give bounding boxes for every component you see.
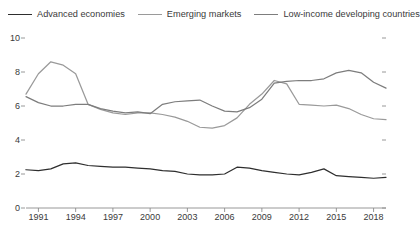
data-series-group	[26, 62, 386, 178]
line-swatch-icon	[8, 14, 32, 15]
line-swatch-icon	[254, 14, 278, 15]
y-tick-label: 0	[0, 204, 20, 213]
x-tick-label: 1991	[21, 213, 55, 222]
legend-label-emerging-markets: Emerging markets	[167, 10, 242, 19]
y-tick-label: 4	[0, 136, 20, 145]
y-tick-label: 6	[0, 102, 20, 111]
line-swatch-icon	[138, 14, 162, 15]
x-tick-label: 2015	[319, 213, 353, 222]
legend-label-advanced-economies: Advanced economies	[37, 10, 125, 19]
x-tick-label: 2012	[282, 213, 316, 222]
x-tick-label: 2009	[245, 213, 279, 222]
series-line	[26, 163, 386, 178]
legend-item-advanced-economies: Advanced economies	[8, 10, 125, 19]
x-tick-label: 2000	[133, 213, 167, 222]
legend-item-low-income-developing-countries: Low-income developing countries	[254, 10, 419, 19]
chart-legend: Advanced economies Emerging markets Low-…	[0, 6, 393, 24]
y-tick-label: 10	[0, 34, 20, 43]
y-tick-label: 2	[0, 170, 20, 179]
x-tick-label: 1997	[96, 213, 130, 222]
legend-item-emerging-markets: Emerging markets	[138, 10, 242, 19]
y-tick-label: 8	[0, 68, 20, 77]
x-tick-label: 2003	[170, 213, 204, 222]
chart-canvas	[0, 28, 393, 213]
x-tick-label: 2018	[357, 213, 391, 222]
x-tick-label: 2006	[208, 213, 242, 222]
x-tick-label: 1994	[59, 213, 93, 222]
plot-area	[0, 28, 393, 213]
legend-label-low-income-developing-countries: Low-income developing countries	[283, 10, 419, 19]
series-line	[26, 70, 386, 113]
series-line	[26, 62, 386, 128]
y-axis-ticks	[21, 38, 386, 208]
